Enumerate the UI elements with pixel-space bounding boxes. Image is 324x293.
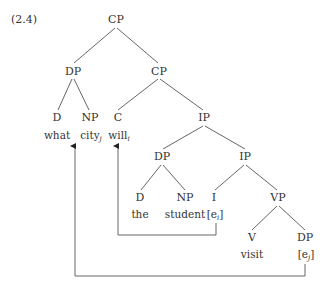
word-what: what	[44, 129, 70, 141]
trace-j: [ej]	[298, 248, 315, 264]
node-dp-spec: DP	[65, 66, 81, 78]
node-ip-top: IP	[198, 112, 210, 124]
node-d-what: D	[53, 112, 62, 124]
node-vp: VP	[270, 192, 285, 204]
node-np-student: NP	[176, 192, 193, 204]
trace-i: [ei]	[207, 208, 224, 224]
word-the: the	[131, 208, 148, 220]
node-v: V	[248, 232, 256, 244]
node-cp-root: CP	[108, 14, 124, 26]
node-np-city: NP	[81, 112, 98, 124]
node-c: C	[114, 112, 122, 124]
example-number: (2.4)	[11, 14, 37, 26]
node-ip-bar: IP	[239, 151, 251, 163]
word-will: willi	[108, 129, 129, 145]
word-city: cityj	[80, 129, 102, 145]
node-d-the: D	[136, 192, 145, 204]
node-i: I	[212, 192, 216, 204]
word-visit: visit	[241, 248, 263, 260]
node-dp-subj: DP	[154, 151, 170, 163]
tree-edges	[0, 0, 324, 293]
node-dp-obj: DP	[297, 232, 313, 244]
word-student: student	[165, 208, 205, 220]
node-cp-bar: CP	[151, 66, 167, 78]
